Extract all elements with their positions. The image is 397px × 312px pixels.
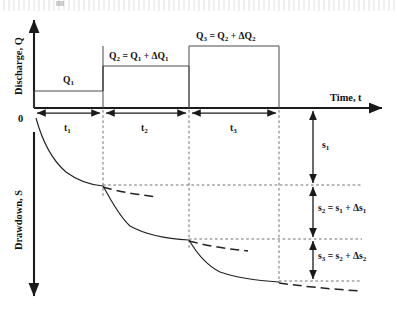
drawdown-dimension-group: s1 s2 = s1 + Δs1 s3 = s2 + Δs2 [313, 111, 367, 279]
step-2-label: Q2 = Q1 + ΔQ1 [109, 50, 169, 63]
vertical-guide-group [103, 110, 279, 283]
drawdown-curve-segment-3 [189, 240, 279, 282]
drawdown-extrapolation-3 [279, 283, 360, 291]
discharge-axis-label: Discharge, Q [13, 37, 24, 95]
axis-label-group: Discharge, Q 0 Drawdown, S Time, t [13, 37, 362, 250]
figure-root: Q1 Q2 = Q1 + ΔQ1 Q3 = Q2 + ΔQ2 Discharge… [0, 0, 397, 312]
origin-label: 0 [18, 113, 23, 124]
step-label-group: Q1 Q2 = Q1 + ΔQ1 Q3 = Q2 + ΔQ2 [63, 30, 256, 87]
drawdown-curve-segment-2 [103, 186, 189, 240]
step-drawdown-diagram: Q1 Q2 = Q1 + ΔQ1 Q3 = Q2 + ΔQ2 Discharge… [0, 0, 397, 312]
s1-label: s1 [322, 139, 330, 152]
s2-label: s2 = s1 + Δs1 [318, 202, 367, 215]
step-2-outline [103, 66, 189, 108]
s3-label: s3 = s2 + Δs2 [318, 250, 367, 263]
t3-label: t3 [230, 122, 237, 135]
t2-label: t2 [141, 122, 148, 135]
drawdown-axis-label: Drawdown, S [13, 190, 24, 250]
drawdown-curve-group [36, 118, 360, 291]
time-axis-label: Time, t [330, 92, 362, 103]
t1-label: t1 [64, 122, 71, 135]
drawdown-extrapolation-2 [189, 241, 248, 251]
step-3-label: Q3 = Q2 + ΔQ2 [196, 30, 256, 43]
drawdown-extrapolation-1 [103, 187, 158, 197]
horizontal-guide-group [103, 185, 362, 281]
time-segment-group: t1 t2 t3 [37, 113, 276, 135]
step-1-label: Q1 [63, 74, 74, 87]
step-3-outline [189, 46, 279, 108]
